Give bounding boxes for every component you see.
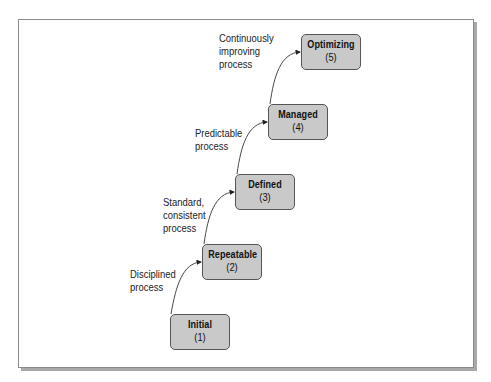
label-line: process bbox=[163, 222, 206, 235]
transition-label-predictable: Predictable process bbox=[195, 127, 242, 153]
transition-label-disciplined: Disciplined process bbox=[130, 268, 176, 294]
label-line: Standard, bbox=[163, 196, 206, 209]
level-name: Initial bbox=[176, 318, 224, 331]
label-line: process bbox=[219, 58, 274, 71]
label-line: Predictable bbox=[195, 127, 242, 140]
level-number: (4) bbox=[273, 121, 322, 134]
label-line: process bbox=[195, 140, 242, 153]
arrow-repeatable-to-defined bbox=[204, 192, 234, 244]
label-line: consistent bbox=[163, 209, 206, 222]
level-name: Repeatable bbox=[208, 248, 256, 261]
level-box-initial: Initial (1) bbox=[170, 314, 230, 350]
level-box-managed: Managed (4) bbox=[268, 104, 328, 140]
transition-label-standard-consistent: Standard, consistent process bbox=[163, 196, 206, 235]
label-line: Disciplined bbox=[130, 268, 176, 281]
transition-label-continuously-improving: Continuously improving process bbox=[219, 32, 274, 71]
level-box-repeatable: Repeatable (2) bbox=[202, 244, 262, 280]
level-box-defined: Defined (3) bbox=[235, 174, 295, 210]
label-line: Continuously bbox=[219, 32, 274, 45]
level-name: Defined bbox=[241, 178, 289, 191]
label-line: process bbox=[130, 281, 176, 294]
level-name: Optimizing bbox=[307, 38, 355, 51]
level-number: (3) bbox=[240, 191, 289, 204]
level-box-optimizing: Optimizing (5) bbox=[301, 34, 361, 70]
arrow-managed-to-optimizing bbox=[270, 52, 300, 104]
level-number: (1) bbox=[175, 331, 224, 344]
level-number: (5) bbox=[306, 51, 355, 64]
level-name: Managed bbox=[274, 108, 322, 121]
level-number: (2) bbox=[207, 261, 256, 274]
label-line: improving bbox=[219, 45, 274, 58]
